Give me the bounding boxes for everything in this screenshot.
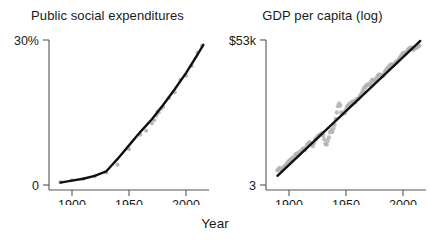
panel-public-social-expenditures: Public social expenditures 30% 0 1900 19… xyxy=(0,0,215,205)
shared-x-axis-label: Year xyxy=(0,216,430,231)
data-point xyxy=(335,110,339,114)
right-xlabel-1900: 1900 xyxy=(275,198,303,205)
left-xlabel-2000: 2000 xyxy=(172,198,200,205)
left-xlabel-1950: 1950 xyxy=(115,198,143,205)
figure-container: Public social expenditures 30% 0 1900 19… xyxy=(0,0,430,243)
right-xlabel-2000: 2000 xyxy=(389,198,417,205)
plot-right: $53k 3 1900 1950 2000 xyxy=(215,0,430,205)
left-data-points xyxy=(58,44,204,184)
data-point xyxy=(338,103,342,107)
right-xlabel-1950: 1950 xyxy=(332,198,360,205)
data-point xyxy=(327,135,331,139)
left-ylabel-bottom: 0 xyxy=(32,179,39,193)
right-ylabel-top: $53k xyxy=(229,34,257,48)
right-trend-line xyxy=(277,41,420,176)
plot-left: 30% 0 1900 1950 2000 xyxy=(0,0,215,205)
left-xlabel-1900: 1900 xyxy=(58,198,86,205)
left-trend-line xyxy=(60,45,203,183)
panel-gdp-per-capita: GDP per capita (log) $53k 3 1900 1950 20… xyxy=(215,0,430,205)
data-point xyxy=(144,129,148,133)
left-ylabel-top: 30% xyxy=(14,34,39,48)
data-point xyxy=(116,163,120,167)
right-ylabel-bottom: 3 xyxy=(249,179,256,193)
